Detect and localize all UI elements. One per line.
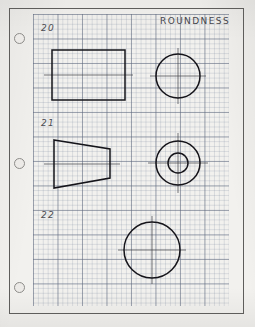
graph-paper-grid — [33, 14, 229, 306]
punch-hole-middle — [14, 158, 25, 169]
problem-number-22: 22 — [41, 210, 55, 220]
grid-heavy-lines — [33, 14, 229, 306]
punch-hole-top — [14, 33, 25, 44]
problem-number-21: 21 — [41, 118, 55, 128]
problem-number-20: 20 — [41, 23, 55, 33]
worksheet-title: ROUNDNESS — [160, 16, 230, 26]
punch-hole-bottom — [14, 282, 25, 293]
worksheet-page: ROUNDNESS 20 21 22 — [0, 0, 255, 327]
